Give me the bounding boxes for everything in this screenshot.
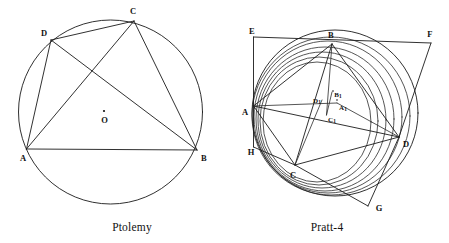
- ptolemy-segment-BC: [134, 21, 197, 150]
- ptolemy-label-B: B: [201, 154, 207, 163]
- pratt4-segment-FD: [399, 43, 431, 137]
- pratt4-label-D1: D1: [313, 98, 321, 105]
- ptolemy-segment-BD: [51, 40, 197, 150]
- pratt4-segment-DC: [295, 137, 399, 165]
- pratt4-segment-GC: [295, 165, 368, 206]
- ptolemy-label-A: A: [20, 154, 26, 163]
- ptolemy-panel: [19, 20, 203, 204]
- ptolemy-segment-DA: [27, 40, 52, 149]
- ptolemy-segment-CD: [51, 21, 134, 40]
- pratt4-label-C1: C1: [328, 117, 336, 124]
- pratt4-label-G: G: [376, 204, 383, 213]
- pratt4-panel: [252, 30, 431, 206]
- pratt4-label-E: E: [249, 27, 255, 36]
- pratt4-label-B1: B1: [334, 92, 342, 99]
- ptolemy-circumcircle: [19, 20, 203, 204]
- pratt4-segment-A-A1: [254, 103, 338, 106]
- pratt4-label-D1-sub: 1: [318, 99, 321, 105]
- ptolemy-segment-AC: [27, 21, 135, 149]
- figure-root: A B C D O A B C D E F G H A1 B1 C1 D1 Pt…: [0, 0, 449, 243]
- pratt4-segment-D1-C: [295, 100, 322, 165]
- pratt4-dot-A1: [336, 99, 338, 101]
- ptolemy-segment-AB: [27, 149, 198, 150]
- caption-pratt4: Pratt-4: [311, 221, 344, 233]
- ptolemy-label-O: O: [101, 116, 108, 125]
- pratt4-label-A1: A1: [339, 105, 347, 112]
- pratt4-circle-5: [258, 52, 386, 188]
- pratt4-label-C: C: [290, 171, 296, 180]
- pratt4-label-D: D: [403, 140, 409, 149]
- ptolemy-center-dot: [103, 110, 105, 112]
- pratt4-label-B: B: [328, 31, 334, 40]
- pratt4-label-B1-sub: 1: [339, 93, 342, 99]
- pratt4-circle-7: [263, 62, 371, 182]
- ptolemy-label-D: D: [41, 29, 47, 38]
- pratt4-label-H: H: [248, 148, 255, 157]
- pratt4-label-A1-sub: 1: [344, 106, 347, 112]
- pratt4-label-C1-sub: 1: [333, 118, 336, 124]
- pratt4-label-F: F: [427, 30, 432, 39]
- pratt4-circle-4: [256, 47, 394, 191]
- caption-ptolemy: Ptolemy: [112, 221, 152, 233]
- pratt4-label-A: A: [242, 108, 248, 117]
- ptolemy-label-C: C: [130, 7, 136, 16]
- pratt4-circle-6: [260, 57, 378, 185]
